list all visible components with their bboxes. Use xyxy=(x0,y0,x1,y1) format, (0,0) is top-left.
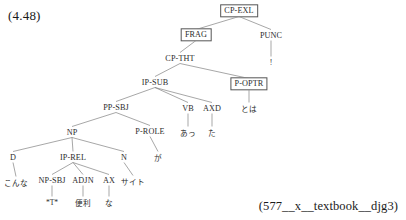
tree-node-adjn: ADJN xyxy=(72,176,93,185)
tree-edge xyxy=(116,113,150,126)
tree-node-punc: PUNC xyxy=(260,31,282,40)
tree-leaf-leaf-d: こんな xyxy=(4,177,28,188)
tree-leaf-leaf-p-optr: とは xyxy=(241,103,257,114)
tree-node-np-sbj: NP-SBJ xyxy=(39,176,66,185)
figure-caption: (577__x__textbook__djg3) xyxy=(259,199,398,214)
tree-leaf-leaf-punc: ! xyxy=(270,58,273,67)
tree-node-cp-tht: CP-THT xyxy=(165,54,194,63)
tree-edge xyxy=(124,163,133,176)
tree-node-ip-rel: IP-REL xyxy=(60,153,86,162)
tree-node-vb: VB xyxy=(182,104,194,113)
tree-leaf-leaf-n: サイト xyxy=(121,176,145,187)
tree-edge xyxy=(72,113,116,127)
tree-edge xyxy=(73,163,109,175)
tree-node-cp-exl: CP-EXL xyxy=(220,4,258,17)
tree-edge xyxy=(116,88,155,102)
syntax-tree-figure: (4.48) CP-EXLFRAGPUNCCP-THTIP-SUBP-OPTRP… xyxy=(0,0,406,220)
tree-leaf-leaf-vb: あっ xyxy=(180,127,196,138)
tree-edge xyxy=(72,138,73,152)
tree-edge xyxy=(239,17,271,30)
tree-node-n: N xyxy=(121,153,127,162)
constituency-tree: CP-EXLFRAGPUNCCP-THTIP-SUBP-OPTRPP-SBJVB… xyxy=(0,0,406,220)
tree-node-np: NP xyxy=(67,128,78,137)
tree-edge xyxy=(52,163,73,175)
tree-edge xyxy=(155,88,188,103)
tree-leaf-leaf-axd: た xyxy=(208,127,216,138)
tree-edge xyxy=(150,137,158,152)
tree-node-axd: AXD xyxy=(203,104,221,113)
tree-edge xyxy=(180,41,196,53)
tree-edge xyxy=(13,163,16,177)
tree-edge xyxy=(155,64,180,77)
tree-edge xyxy=(155,88,212,103)
tree-leaf-leaf-ax: な xyxy=(105,197,113,208)
tree-leaf-leaf-p-role: が xyxy=(154,152,162,163)
tree-node-p-role: P-ROLE xyxy=(135,127,164,136)
tree-node-frag: FRAG xyxy=(181,28,212,41)
tree-node-ip-sub: IP-SUB xyxy=(142,78,169,87)
tree-edge xyxy=(72,138,124,152)
tree-edge xyxy=(73,163,83,175)
tree-edge xyxy=(13,138,72,152)
tree-node-pp-sbj: PP-SBJ xyxy=(103,103,129,112)
tree-edge xyxy=(180,64,249,79)
tree-leaf-leaf-np-sbj: *T* xyxy=(46,198,58,207)
tree-node-d: D xyxy=(10,153,16,162)
tree-node-p-optr: P-OPTR xyxy=(230,77,267,90)
tree-node-ax: AX xyxy=(103,176,115,185)
tree-leaf-leaf-adjn: 便利 xyxy=(75,197,91,208)
